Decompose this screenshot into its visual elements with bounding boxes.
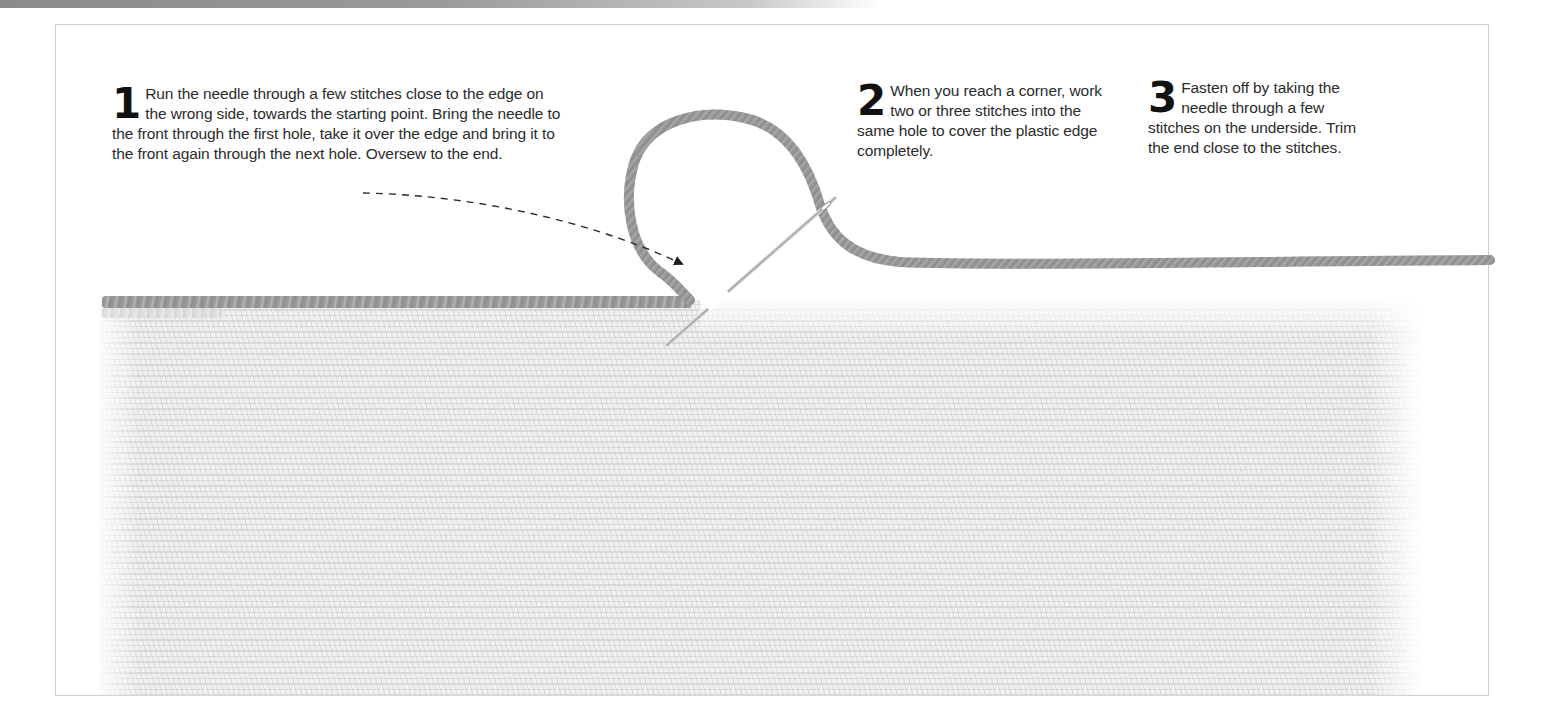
step-1-text: Run the needle through a few stitches cl…: [112, 85, 560, 162]
needle-entry-gap: [702, 285, 729, 311]
step-3-instruction: 3 Fasten off by taking the needle throug…: [1148, 78, 1378, 158]
needle-icon: [667, 198, 835, 345]
step-3-text: Fasten off by taking the needle through …: [1148, 79, 1356, 156]
step-3-number: 3: [1148, 81, 1175, 115]
step-2-instruction: 2 When you reach a corner, work two or t…: [857, 81, 1107, 161]
step-2-text: When you reach a corner, work two or thr…: [857, 82, 1102, 159]
step-1-instruction: 1 Run the needle through a few stitches …: [112, 84, 567, 164]
step-1-number: 1: [112, 87, 139, 121]
step-2-number: 2: [857, 84, 884, 118]
